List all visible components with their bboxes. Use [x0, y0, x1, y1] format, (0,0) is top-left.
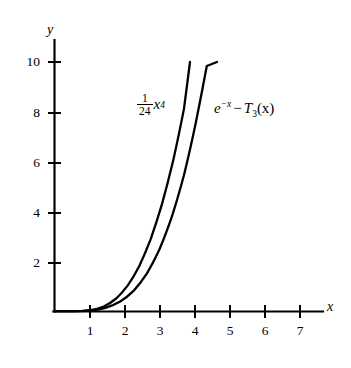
fraction-numerator: 1: [140, 92, 150, 104]
y-tick-label-4: 4: [14, 205, 40, 221]
y-axis-name: y: [47, 22, 53, 38]
x-tick-label-5: 5: [222, 323, 238, 339]
x-tick-label-6: 6: [257, 323, 273, 339]
x-axis-name: x: [327, 299, 333, 315]
remainder-base: e: [214, 100, 221, 116]
fraction-denominator: 24: [137, 105, 153, 117]
curve-label-quartic: 1 24 x4: [137, 92, 165, 117]
y-tick-label-6: 6: [14, 155, 40, 171]
x-tick-label-1: 1: [82, 323, 98, 339]
curve-label-remainder: e−x−T3(x): [214, 101, 274, 116]
plot-canvas: [0, 0, 351, 368]
y-tick-label-8: 8: [14, 105, 40, 121]
curve-quartic: [55, 62, 190, 311]
fraction-one-over-24: 1 24: [137, 92, 153, 117]
x-tick-label-3: 3: [152, 323, 168, 339]
x-tick-label-7: 7: [292, 323, 308, 339]
x-tick-label-4: 4: [187, 323, 203, 339]
figure-root: 10 8 6 4 2 1 2 3 4 5 6 7 y x 1 24 x4 e−x…: [0, 0, 351, 368]
quartic-variable: x: [154, 97, 161, 112]
remainder-argument: (x): [257, 100, 275, 116]
x-tick-label-2: 2: [117, 323, 133, 339]
y-tick-label-10: 10: [14, 54, 40, 70]
remainder-exponent: −x: [221, 99, 232, 109]
y-tick-label-2: 2: [14, 255, 40, 271]
remainder-operator: −: [231, 100, 243, 116]
remainder-term: T: [244, 100, 252, 116]
